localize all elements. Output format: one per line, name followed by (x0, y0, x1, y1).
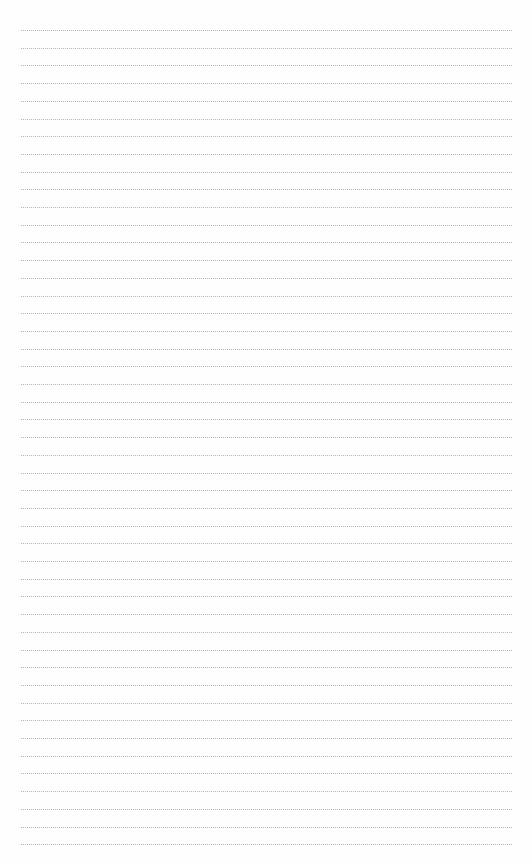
ruled-line (21, 632, 512, 633)
lined-paper-page (0, 0, 531, 864)
ruled-line (21, 225, 512, 226)
ruled-line (21, 526, 512, 527)
ruled-line (21, 402, 512, 403)
ruled-line (21, 773, 512, 774)
ruled-line (21, 703, 512, 704)
ruled-line (21, 844, 512, 845)
ruled-line (21, 101, 512, 102)
ruled-line (21, 543, 512, 544)
ruled-line (21, 384, 512, 385)
ruled-line (21, 667, 512, 668)
ruled-line (21, 83, 512, 84)
ruled-line (21, 136, 512, 137)
ruled-line (21, 30, 512, 31)
ruled-line (21, 720, 512, 721)
ruled-line (21, 419, 512, 420)
ruled-line (21, 614, 512, 615)
ruled-line (21, 650, 512, 651)
ruled-line (21, 579, 512, 580)
ruled-line (21, 278, 512, 279)
ruled-line (21, 172, 512, 173)
ruled-line (21, 65, 512, 66)
ruled-line (21, 154, 512, 155)
ruled-line (21, 331, 512, 332)
ruled-line (21, 738, 512, 739)
ruled-line (21, 242, 512, 243)
ruled-line (21, 756, 512, 757)
ruled-line (21, 260, 512, 261)
ruled-line (21, 313, 512, 314)
ruled-line (21, 296, 512, 297)
ruled-line (21, 189, 512, 190)
ruled-line (21, 508, 512, 509)
ruled-line (21, 207, 512, 208)
ruled-line (21, 473, 512, 474)
ruled-line (21, 366, 512, 367)
ruled-line (21, 791, 512, 792)
ruled-line (21, 437, 512, 438)
ruled-line (21, 490, 512, 491)
ruled-line (21, 809, 512, 810)
ruled-line (21, 561, 512, 562)
ruled-line (21, 685, 512, 686)
ruled-line (21, 48, 512, 49)
ruled-line (21, 349, 512, 350)
ruled-line (21, 827, 512, 828)
ruled-line (21, 455, 512, 456)
ruled-line (21, 596, 512, 597)
ruled-line (21, 119, 512, 120)
